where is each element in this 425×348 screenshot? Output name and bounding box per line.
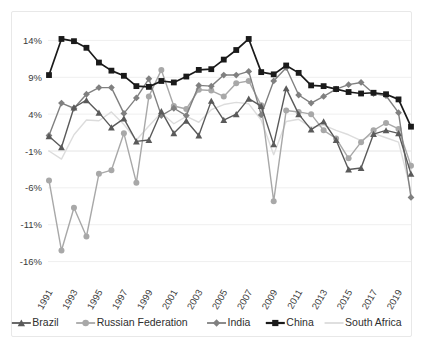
- legend-item-russian-federation[interactable]: Russian Federation: [76, 316, 188, 328]
- data-point-marker: [345, 81, 352, 88]
- data-point-marker: [58, 248, 64, 254]
- data-point-marker: [408, 171, 415, 177]
- data-point-marker: [71, 38, 77, 44]
- data-point-marker: [283, 85, 290, 91]
- data-point-marker: [46, 177, 52, 183]
- x-axis-tick-label: 1991: [35, 288, 55, 312]
- data-point-marker: [196, 67, 202, 73]
- legend-swatch-marker: [272, 320, 278, 326]
- data-point-marker: [183, 74, 189, 80]
- data-point-marker: [120, 115, 127, 121]
- data-point-marker: [245, 68, 252, 75]
- y-axis-tick-label: 9%: [28, 72, 42, 83]
- data-point-marker: [233, 80, 239, 86]
- y-axis-tick-label: -1%: [25, 146, 42, 157]
- data-point-marker: [321, 83, 327, 89]
- x-axis-tick-label: 2001: [159, 288, 179, 312]
- data-point-marker: [58, 100, 65, 107]
- x-axis-tick-label: 1999: [134, 288, 154, 312]
- legend-item-china[interactable]: China: [266, 316, 314, 328]
- data-point-marker: [146, 93, 152, 99]
- x-axis-tick-label: 2019: [384, 288, 404, 312]
- data-point-marker: [96, 171, 102, 177]
- series-line: [49, 88, 411, 174]
- x-axis-tick-labels: 1991199319951997199920012003200520072009…: [35, 288, 405, 312]
- data-point-marker: [195, 82, 202, 89]
- data-point-marker: [283, 63, 289, 69]
- y-axis-tick-label: 4%: [28, 109, 42, 120]
- data-point-marker: [233, 47, 239, 53]
- data-point-marker: [383, 91, 389, 97]
- data-point-marker: [408, 194, 415, 201]
- x-axis-tick-label: 2013: [309, 288, 329, 312]
- series-brazil: [46, 85, 415, 177]
- data-point-marker: [358, 91, 364, 97]
- data-point-marker: [283, 107, 289, 113]
- data-point-marker: [371, 90, 377, 96]
- chart-container: 14%9%4%-1%-6%-11%-16% 199119931995199719…: [0, 0, 425, 348]
- data-point-marker: [146, 84, 152, 90]
- legend-item-india[interactable]: India: [207, 316, 250, 328]
- legend-label: Russian Federation: [97, 316, 188, 328]
- data-point-marker: [208, 98, 215, 104]
- series-line: [49, 68, 411, 198]
- data-point-marker: [346, 155, 352, 161]
- legend-label: India: [228, 316, 251, 328]
- legend-item-brazil[interactable]: Brazil: [12, 316, 59, 328]
- data-point-marker: [133, 180, 139, 186]
- x-axis-tick-label: 2003: [184, 288, 204, 312]
- data-point-marker: [121, 73, 127, 79]
- data-point-marker: [59, 36, 65, 42]
- x-axis-tick-label: 1993: [60, 288, 80, 312]
- data-point-marker: [358, 139, 364, 145]
- x-axis-tick-label: 2015: [334, 288, 354, 312]
- data-point-marker: [258, 69, 264, 75]
- series-south-africa: [49, 102, 411, 190]
- data-point-marker: [408, 124, 414, 130]
- data-point-marker: [308, 100, 315, 107]
- series-line: [49, 70, 411, 251]
- data-point-marker: [133, 83, 139, 89]
- gridlines: [48, 40, 411, 261]
- data-point-marker: [383, 120, 389, 126]
- x-axis-tick-label: 1995: [85, 288, 105, 312]
- data-point-marker: [221, 57, 227, 63]
- data-point-marker: [221, 93, 227, 99]
- x-axis-tick-label: 2011: [285, 288, 305, 311]
- series-line: [49, 102, 411, 190]
- data-point-marker: [308, 82, 314, 88]
- data-point-marker: [83, 234, 89, 240]
- data-point-marker: [271, 198, 277, 204]
- data-point-marker: [108, 84, 115, 91]
- data-point-marker: [158, 78, 164, 84]
- legend-swatch-marker: [82, 320, 89, 327]
- x-axis-tick-label: 2009: [259, 288, 279, 312]
- x-axis-tick-label: 2007: [234, 288, 254, 312]
- data-point-marker: [320, 118, 327, 124]
- data-point-marker: [158, 67, 164, 73]
- legend-swatch-marker: [213, 319, 220, 326]
- legend-label: Brazil: [32, 316, 58, 328]
- legend-label: China: [286, 316, 314, 328]
- data-point-marker: [346, 89, 352, 95]
- x-axis-tick-label: 2017: [359, 288, 379, 312]
- data-point-marker: [220, 117, 227, 123]
- data-point-marker: [271, 71, 277, 77]
- legend-item-south-africa[interactable]: South Africa: [325, 316, 402, 328]
- data-point-marker: [96, 84, 103, 91]
- data-point-marker: [245, 95, 252, 101]
- y-axis-tick-label: -16%: [20, 256, 43, 267]
- data-point-marker: [208, 66, 214, 72]
- data-point-marker: [396, 97, 402, 103]
- y-axis-tick-label: 14%: [23, 35, 43, 46]
- data-point-marker: [270, 141, 277, 147]
- x-axis-tick-label: 1997: [110, 288, 130, 312]
- data-point-marker: [108, 167, 114, 173]
- data-point-marker: [84, 45, 90, 51]
- data-point-marker: [308, 111, 314, 117]
- series-india: [46, 64, 415, 201]
- x-axis-tick-label: 2005: [209, 288, 229, 312]
- data-point-marker: [296, 70, 302, 76]
- data-point-marker: [171, 80, 177, 86]
- y-axis-tick-label: -11%: [21, 219, 43, 230]
